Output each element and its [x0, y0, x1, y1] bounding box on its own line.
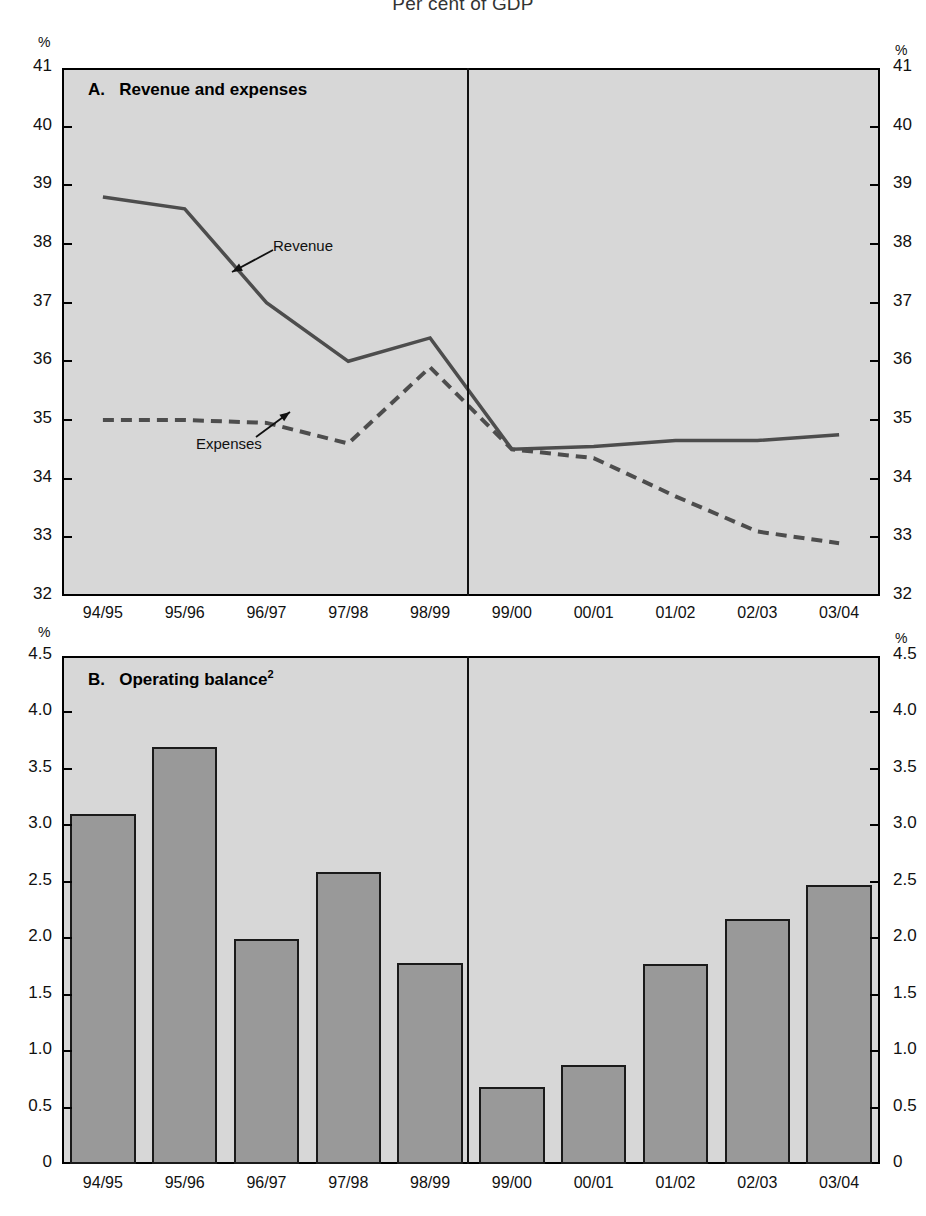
panel-a-ytick-left-38: 38: [14, 233, 52, 250]
panel-a-tickmark-right-35: [870, 419, 880, 421]
panel-b-tickmark-left-0-5: [62, 1107, 72, 1109]
panel-a-forecast-divider: [467, 68, 469, 596]
panel-b-ytick-right-1-5: 1.5: [893, 984, 926, 1001]
panel-b-tickmark-right-0-5: [870, 1107, 880, 1109]
panel-b-tickmark-left-4-0: [62, 711, 72, 713]
panel-b-ytick-left-4-0: 4.0: [6, 701, 52, 718]
panel-a-ytick-left-32: 32: [14, 585, 52, 602]
panel-a-xtick-99-00: 99/00: [470, 604, 554, 622]
panel-a-tickmark-left-40: [62, 126, 72, 128]
panel-b-left-unit: %: [38, 624, 50, 640]
panel-b-xtick-03-04: 03/04: [797, 1174, 881, 1192]
panel-a-ytick-right-40: 40: [893, 116, 926, 133]
bar-94-95: [70, 814, 135, 1164]
panel-a-tickmark-right-40: [870, 126, 880, 128]
panel-a-left-unit: %: [38, 34, 50, 50]
panel-a-xtick-97-98: 97/98: [306, 604, 390, 622]
panel-b-xtick-98-99: 98/99: [388, 1174, 472, 1192]
panel-b-xtick-99-00: 99/00: [470, 1174, 554, 1192]
panel-b-ytick-left-2-0: 2.0: [6, 927, 52, 944]
panel-b-title-prefix: B.: [88, 670, 105, 689]
panel-b-tickmark-right-1-0: [870, 1050, 880, 1052]
panel-b-tickmark-right-3-0: [870, 824, 880, 826]
panel-b-ytick-left-4-5: 4.5: [6, 645, 52, 662]
panel-a-xtick-01-02: 01/02: [634, 604, 718, 622]
bar-96-97: [234, 939, 299, 1164]
panel-b-xtick-96-97: 96/97: [225, 1174, 309, 1192]
panel-b-ytick-left-2-5: 2.5: [6, 871, 52, 888]
panel-b-ytick-right-0-5: 0.5: [893, 1097, 926, 1114]
panel-a-xtick-00-01: 00/01: [552, 604, 636, 622]
panel-b-ytick-left-3-0: 3.0: [6, 814, 52, 831]
panel-b-tickmark-right-3-5: [870, 768, 880, 770]
panel-a-tickmark-right-33: [870, 536, 880, 538]
bar-97-98: [316, 872, 381, 1164]
panel-b-title: B. Operating balance2: [88, 668, 274, 690]
bar-98-99: [397, 963, 462, 1164]
panel-b-xtick-01-02: 01/02: [634, 1174, 718, 1192]
panel-b-tickmark-left-1-0: [62, 1050, 72, 1052]
panel-a-ytick-right-36: 36: [893, 350, 926, 367]
panel-b-ytick-left-0-5: 0.5: [6, 1097, 52, 1114]
panel-b-tickmark-right-1-5: [870, 994, 880, 996]
panel-a-ytick-left-34: 34: [14, 468, 52, 485]
panel-a-ytick-right-32: 32: [893, 585, 926, 602]
panel-b-ytick-left-0: 0: [6, 1153, 52, 1170]
panel-a-expenses-annotation-arrow: [256, 412, 290, 437]
panel-b-ytick-left-1-5: 1.5: [6, 984, 52, 1001]
panel-a-revenue-label: Revenue: [273, 237, 333, 254]
panel-b-tickmark-left-2-5: [62, 881, 72, 883]
panel-a-ytick-right-37: 37: [893, 292, 926, 309]
panel-b-xtick-02-03: 02/03: [715, 1174, 799, 1192]
panel-a-title-prefix: A.: [88, 80, 105, 99]
panel-a-tickmark-left-38: [62, 243, 72, 245]
panel-a-xtick-96-97: 96/97: [225, 604, 309, 622]
panel-b-tickmark-right-4-0: [870, 711, 880, 713]
panel-a-ytick-left-36: 36: [14, 350, 52, 367]
panel-b-ytick-right-4-5: 4.5: [893, 645, 926, 662]
panel-a-xtick-94-95: 94/95: [61, 604, 145, 622]
panel-a-ytick-right-38: 38: [893, 233, 926, 250]
panel-b-ytick-right-0: 0: [893, 1153, 926, 1170]
panel-a-tickmark-right-34: [870, 478, 880, 480]
panel-a-expenses-label: Expenses: [196, 435, 262, 452]
panel-a-ytick-left-41: 41: [14, 57, 52, 74]
panel-b-xtick-00-01: 00/01: [552, 1174, 636, 1192]
bar-03-04: [806, 885, 871, 1164]
panel-b-ytick-right-3-5: 3.5: [893, 758, 926, 775]
panel-a-xtick-02-03: 02/03: [715, 604, 799, 622]
panel-a-tickmark-left-39: [62, 184, 72, 186]
bar-95-96: [152, 747, 217, 1164]
panel-b-ytick-right-2-0: 2.0: [893, 927, 926, 944]
bar-02-03: [725, 919, 790, 1164]
panel-a-series-revenue: [103, 197, 839, 449]
panel-a-tickmark-right-36: [870, 360, 880, 362]
panel-b-tickmark-left-2-0: [62, 937, 72, 939]
panel-a-xtick-03-04: 03/04: [797, 604, 881, 622]
panel-a-tickmark-right-37: [870, 302, 880, 304]
panel-b-xtick-94-95: 94/95: [61, 1174, 145, 1192]
panel-a-ytick-left-40: 40: [14, 116, 52, 133]
panel-a-tickmark-left-36: [62, 360, 72, 362]
panel-a-tickmark-left-37: [62, 302, 72, 304]
panel-a-plot-area: [62, 68, 880, 596]
panel-b-tickmark-right-2-0: [870, 937, 880, 939]
panel-b-ytick-left-3-5: 3.5: [6, 758, 52, 775]
panel-b-forecast-divider: [467, 656, 469, 1164]
panel-b-title-footnote-marker: 2: [268, 668, 274, 680]
panel-b-tickmark-left-3-5: [62, 768, 72, 770]
bar-99-00: [479, 1087, 544, 1164]
panel-b-tickmark-left-3-0: [62, 824, 72, 826]
figure-title: Per cent of GDP: [0, 0, 926, 15]
panel-a-ytick-right-33: 33: [893, 526, 926, 543]
panel-a-series-layer: [64, 70, 878, 594]
panel-a-xtick-95-96: 95/96: [143, 604, 227, 622]
bar-01-02: [643, 964, 708, 1164]
panel-a-title-text: Revenue and expenses: [119, 80, 307, 99]
panel-a-ytick-right-39: 39: [893, 174, 926, 191]
panel-b-ytick-left-1-0: 1.0: [6, 1040, 52, 1057]
panel-a-tickmark-right-39: [870, 184, 880, 186]
panel-a-ytick-left-35: 35: [14, 409, 52, 426]
panel-a-ytick-right-41: 41: [893, 57, 926, 74]
panel-a-tickmark-left-34: [62, 478, 72, 480]
